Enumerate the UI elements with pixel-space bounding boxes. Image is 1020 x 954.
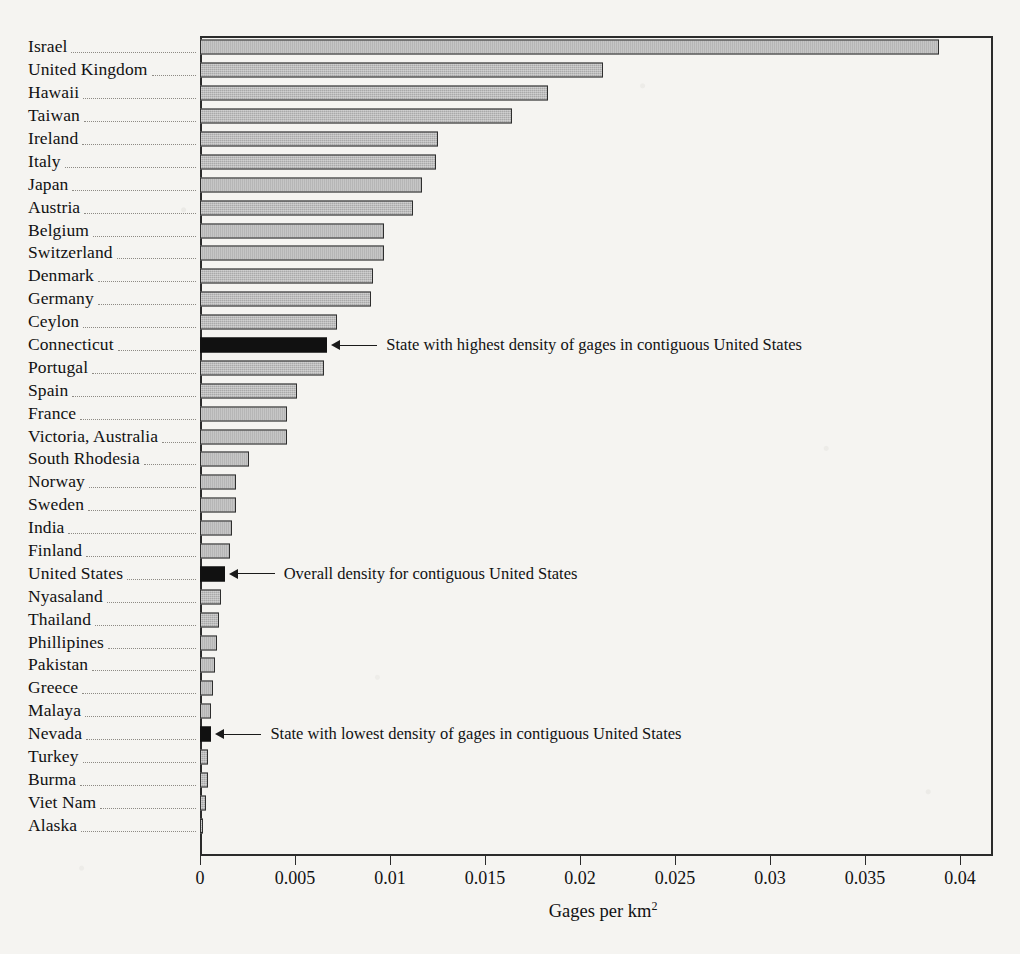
category-label: United States <box>28 565 123 583</box>
leader-dots <box>93 236 196 237</box>
bar-rows-container: IsraelUnited KingdomHawaiiTaiwanIrelandI… <box>0 36 1020 837</box>
bar-row: ConnecticutState with highest density of… <box>0 334 1020 357</box>
bar-row: Burma <box>0 769 1020 792</box>
bar <box>200 772 208 787</box>
leader-dots <box>118 350 196 351</box>
bar-row: Germany <box>0 288 1020 311</box>
bar-row: France <box>0 402 1020 425</box>
category-label: France <box>28 405 76 423</box>
bar-row: United Kingdom <box>0 59 1020 82</box>
leader-dots <box>84 213 196 214</box>
bar-row: Phillipines <box>0 631 1020 654</box>
category-label: Nevada <box>28 725 82 743</box>
bar <box>200 132 438 147</box>
bar-row: Portugal <box>0 356 1020 379</box>
x-tick-label: 0.025 <box>655 868 696 889</box>
bar <box>200 40 939 55</box>
category-label: Pakistan <box>28 656 88 674</box>
leader-dots <box>68 533 196 534</box>
bar <box>200 429 287 444</box>
x-tick-label: 0.04 <box>944 868 976 889</box>
leader-dots <box>83 327 196 328</box>
bar-highlighted <box>200 566 225 581</box>
leader-dots <box>92 373 196 374</box>
leader-dots <box>89 487 196 488</box>
category-label: Greece <box>28 679 78 697</box>
bar-row: Taiwan <box>0 105 1020 128</box>
bar <box>200 223 384 238</box>
leader-dots <box>100 808 196 809</box>
leader-dots <box>144 464 196 465</box>
leader-dots <box>92 670 196 671</box>
bar <box>200 452 249 467</box>
bar <box>200 704 211 719</box>
bar <box>200 86 548 101</box>
category-label: Hawaii <box>28 84 79 102</box>
leader-dots <box>71 52 196 53</box>
leader-dots <box>83 762 196 763</box>
bar <box>200 612 219 627</box>
bar-row: Finland <box>0 540 1020 563</box>
bar-row: Israel <box>0 36 1020 59</box>
leader-dots <box>127 579 196 580</box>
bar <box>200 315 337 330</box>
leader-dots <box>72 190 196 191</box>
bar <box>200 177 422 192</box>
x-tick <box>580 856 581 865</box>
leader-dots <box>98 304 196 305</box>
bar-row: Nyasaland <box>0 585 1020 608</box>
category-label: Ceylon <box>28 313 79 331</box>
bar-row: South Rhodesia <box>0 448 1020 471</box>
bar-row: Malaya <box>0 700 1020 723</box>
bar <box>200 475 236 490</box>
category-label: Burma <box>28 771 76 789</box>
x-tick-label: 0.03 <box>754 868 786 889</box>
leader-dots <box>117 258 196 259</box>
bar-row: Thailand <box>0 608 1020 631</box>
annotation-text: State with lowest density of gages in co… <box>270 724 681 744</box>
bar-annotation: Overall density for contiguous United St… <box>229 564 578 584</box>
leader-dots <box>84 121 196 122</box>
bar <box>200 818 203 833</box>
category-label: Nyasaland <box>28 588 103 606</box>
x-tick-label: 0.02 <box>564 868 596 889</box>
bar-highlighted <box>200 338 327 353</box>
x-tick <box>200 856 201 865</box>
bar-row: United StatesOverall density for contigu… <box>0 562 1020 585</box>
leader-dots <box>83 98 196 99</box>
leader-dots <box>107 602 196 603</box>
bar <box>200 292 371 307</box>
x-tick-label: 0.005 <box>275 868 316 889</box>
leader-dots <box>152 75 196 76</box>
bar-row: Hawaii <box>0 82 1020 105</box>
bar-row: Viet Nam <box>0 791 1020 814</box>
category-label: Ireland <box>28 130 78 148</box>
leader-dots <box>108 648 196 649</box>
x-tick <box>770 856 771 865</box>
x-tick-label: 0.035 <box>845 868 886 889</box>
bar-row: Turkey <box>0 746 1020 769</box>
arrow-left-icon <box>215 729 261 739</box>
bar <box>200 635 217 650</box>
bar <box>200 658 215 673</box>
category-label: Norway <box>28 473 85 491</box>
bar-row: Denmark <box>0 265 1020 288</box>
x-tick-label: 0 <box>196 868 205 889</box>
bar <box>200 544 230 559</box>
bar-row: Belgium <box>0 219 1020 242</box>
category-label: Austria <box>28 199 80 217</box>
x-tick-label: 0.01 <box>374 868 406 889</box>
category-label: Spain <box>28 382 68 400</box>
x-tick <box>485 856 486 865</box>
bar-annotation: State with lowest density of gages in co… <box>215 724 681 744</box>
bar-row: Pakistan <box>0 654 1020 677</box>
bar-chart-figure: IsraelUnited KingdomHawaiiTaiwanIrelandI… <box>0 0 1020 954</box>
bar-highlighted <box>200 727 211 742</box>
bar-row: Victoria, Australia <box>0 425 1020 448</box>
bar <box>200 200 413 215</box>
x-axis: 00.0050.010.0150.020.0250.030.0350.04 Ga… <box>0 856 1020 954</box>
leader-dots <box>82 144 196 145</box>
category-label: Alaska <box>28 817 77 835</box>
bar <box>200 589 221 604</box>
leader-dots <box>65 167 196 168</box>
